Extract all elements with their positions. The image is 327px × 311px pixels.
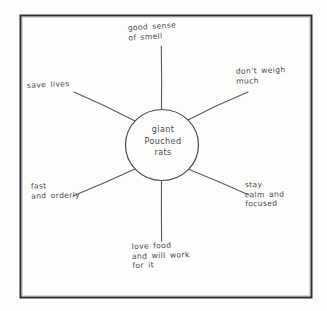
word-web-diagram: giant Pouched rats good sense of smell d… [0, 0, 327, 311]
center-node-label: giant Pouched rats [130, 124, 196, 159]
spoke-line-upper-left [74, 92, 135, 121]
spoke-label-fast-and-orderly: fast and orderly [31, 180, 80, 200]
spoke-line-lower-left [73, 169, 135, 196]
spoke-label-stay-calm-and-focused: stay calm and focused [245, 180, 285, 209]
spoke-label-dont-weigh-much: don't weigh much [236, 65, 286, 86]
spoke-label-good-sense-of-smell: good sense of smell [127, 21, 176, 43]
spoke-line-upper-right [188, 92, 248, 120]
spoke-label-save-lives: save lives [27, 79, 70, 90]
spoke-label-love-food-and-will-work-for-it: love food and will work for it [132, 240, 191, 270]
spoke-line-lower-right [188, 169, 249, 195]
